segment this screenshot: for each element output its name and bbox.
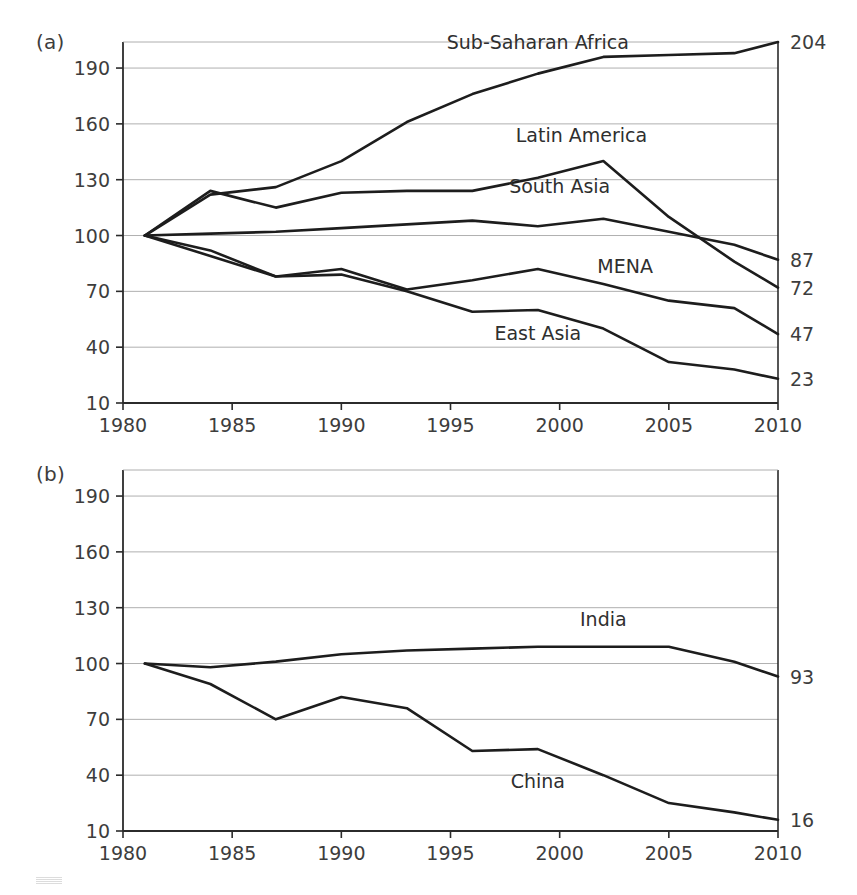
x-tick-label: 1980 [99, 842, 147, 864]
y-tick-label: 100 [74, 653, 110, 675]
y-tick-label: 130 [74, 169, 110, 191]
x-tick-label: 1990 [317, 842, 365, 864]
end-value-east-asia: 23 [790, 368, 814, 390]
x-tick-label: 1995 [426, 414, 474, 436]
series-label-sub-saharan-africa: Sub-Saharan Africa [447, 31, 629, 53]
chart-b-plot: 1040701001301601901980198519901995200020… [0, 440, 857, 895]
y-tick-label: 10 [86, 820, 110, 842]
y-tick-label: 130 [74, 597, 110, 619]
series-line-south-asia [145, 219, 778, 260]
x-tick-label: 2010 [754, 414, 802, 436]
x-tick-label: 2000 [535, 842, 583, 864]
series-line-india [145, 647, 778, 677]
series-label-south-asia: South Asia [509, 175, 610, 197]
series-line-mena [145, 236, 778, 335]
chart-panel-a: (a) 104070100130160190198019851990199520… [0, 0, 857, 440]
end-value-mena: 47 [790, 323, 814, 345]
end-value-latin-america: 72 [790, 277, 814, 299]
y-tick-label: 100 [74, 225, 110, 247]
series-label-latin-america: Latin America [516, 124, 647, 146]
scan-artifact [36, 877, 62, 884]
x-tick-label: 1990 [317, 414, 365, 436]
y-tick-label: 70 [86, 280, 110, 302]
end-value-sub-saharan-africa: 204 [790, 31, 826, 53]
y-tick-label: 160 [74, 541, 110, 563]
x-tick-label: 1985 [208, 414, 256, 436]
chart-panel-b: (b) 104070100130160190198019851990199520… [0, 440, 857, 895]
end-value-south-asia: 87 [790, 249, 814, 271]
end-value-china: 16 [790, 809, 814, 831]
series-line-china [145, 664, 778, 820]
x-tick-label: 2010 [754, 842, 802, 864]
y-tick-label: 160 [74, 113, 110, 135]
x-tick-label: 2000 [535, 414, 583, 436]
x-tick-label: 1985 [208, 842, 256, 864]
x-tick-label: 2005 [645, 414, 693, 436]
series-label-china: China [511, 770, 565, 792]
series-label-india: India [580, 608, 627, 630]
series-label-mena: MENA [597, 255, 653, 277]
y-tick-label: 40 [86, 336, 110, 358]
end-value-india: 93 [790, 666, 814, 688]
y-tick-label: 10 [86, 392, 110, 414]
y-tick-label: 70 [86, 708, 110, 730]
y-tick-label: 190 [74, 485, 110, 507]
series-line-sub-saharan-africa [145, 42, 778, 236]
x-tick-label: 1995 [426, 842, 474, 864]
series-line-east-asia [145, 236, 778, 379]
x-tick-label: 2005 [645, 842, 693, 864]
chart-a-plot: 1040701001301601901980198519901995200020… [0, 0, 857, 440]
y-tick-label: 40 [86, 764, 110, 786]
y-tick-label: 190 [74, 57, 110, 79]
series-label-east-asia: East Asia [494, 322, 581, 344]
x-tick-label: 1980 [99, 414, 147, 436]
